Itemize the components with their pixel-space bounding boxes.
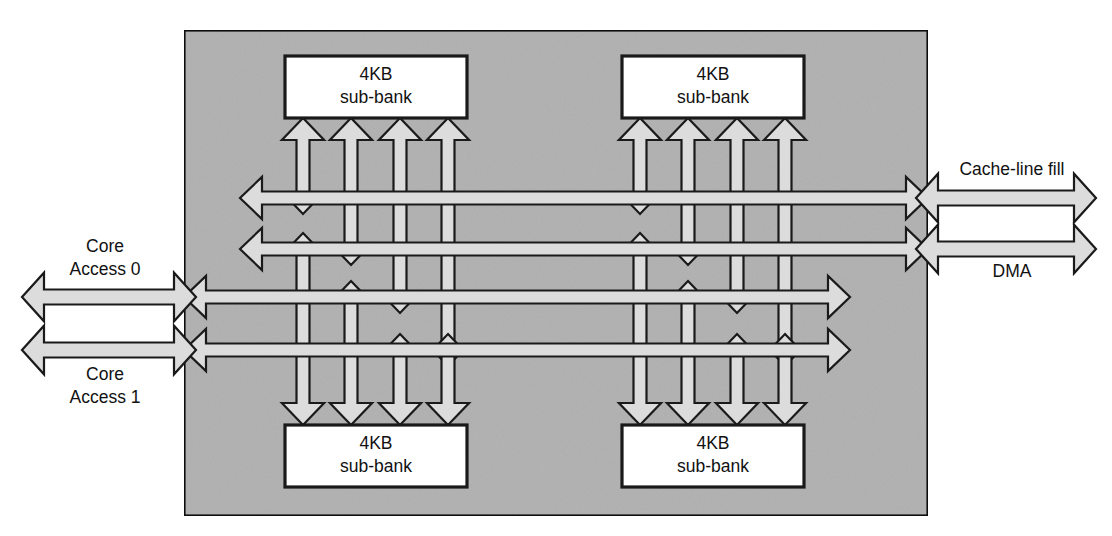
sub-bank-capacity-label: 4KB	[696, 64, 729, 84]
port-label-dma: DMA	[993, 261, 1032, 281]
sub-bank-capacity-label: 4KB	[696, 433, 729, 453]
port-label-core-access-0: CoreAccess 0	[70, 236, 141, 279]
sub-bank-name-label: sub-bank	[677, 87, 749, 107]
sub-bank-capacity-label: 4KB	[359, 64, 392, 84]
external-arrow	[22, 273, 196, 322]
port-label-line2: Access 1	[70, 387, 141, 407]
cache-architecture-diagram: 4KBsub-bank4KBsub-bank4KBsub-bank4KBsub-…	[0, 0, 1112, 536]
external-port-core-access-0	[22, 273, 196, 322]
port-label-line1: Core	[86, 236, 124, 256]
external-port-cache-line-fill	[916, 174, 1096, 223]
sub-bank-top-right: 4KBsub-bank	[622, 56, 804, 118]
sub-bank-bottom-right: 4KBsub-bank	[622, 425, 804, 487]
sub-bank-name-label: sub-bank	[677, 456, 749, 476]
sub-bank-name-label: sub-bank	[340, 87, 412, 107]
port-label-line2: Access 0	[70, 259, 141, 279]
sub-bank-top-left: 4KBsub-bank	[285, 56, 467, 118]
sub-bank-name-label: sub-bank	[340, 456, 412, 476]
sub-bank-capacity-label: 4KB	[359, 433, 392, 453]
diagram-canvas: 4KBsub-bank4KBsub-bank4KBsub-bank4KBsub-…	[0, 0, 1112, 536]
port-label-cache-line-fill: Cache-line fill	[959, 159, 1064, 179]
port-label-line1: Core	[86, 364, 124, 384]
external-arrow	[916, 174, 1096, 223]
port-label-line1: DMA	[993, 261, 1032, 281]
port-label-core-access-1: CoreAccess 1	[70, 364, 141, 407]
port-label-line1: Cache-line fill	[959, 159, 1064, 179]
sub-bank-bottom-left: 4KBsub-bank	[285, 425, 467, 487]
